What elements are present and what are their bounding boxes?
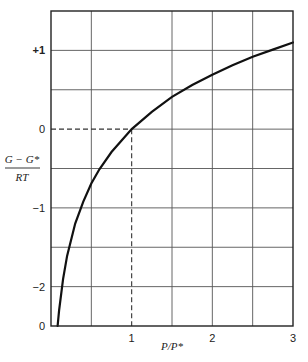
- y-axis-title: G − G* RT: [5, 153, 40, 183]
- chart: 123 +10−1−2 0 G − G* RT P/P*: [0, 0, 308, 362]
- y-tick-label: +1: [32, 44, 45, 56]
- y-axis-title-numerator: G − G*: [5, 153, 40, 165]
- series-line: [58, 43, 293, 327]
- origin-label: 0: [39, 320, 45, 332]
- y-tick-label: 0: [39, 123, 45, 135]
- x-tick-label: 3: [290, 332, 296, 344]
- x-tick-label: 2: [209, 332, 215, 344]
- x-tick-label: 1: [129, 332, 135, 344]
- y-axis-tick-labels: +10−1−2: [32, 44, 45, 292]
- y-tick-label: −1: [32, 202, 45, 214]
- x-axis-tick-labels: 123: [129, 332, 296, 344]
- x-axis-title: P/P*: [160, 340, 183, 352]
- y-tick-label: −2: [32, 281, 45, 293]
- y-axis-title-denominator: RT: [15, 171, 30, 183]
- grid-lines: [51, 11, 293, 326]
